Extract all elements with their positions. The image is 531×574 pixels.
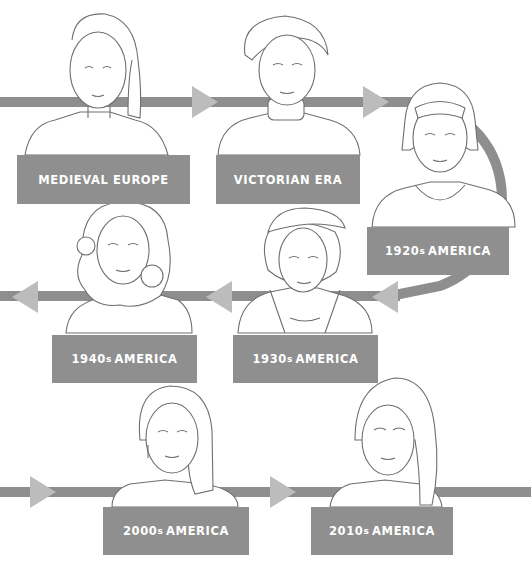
portrait-medieval-europe <box>25 14 168 155</box>
era-region: AMERICA <box>166 524 229 538</box>
era-decade: 1920 <box>385 244 419 258</box>
era-decade: 2010 <box>329 524 363 538</box>
era-label-victorian-era: VICTORIAN ERA <box>216 155 360 204</box>
era-region: AMERICA <box>115 352 178 366</box>
era-decade: 1940 <box>72 352 106 366</box>
era-label-text: VICTORIAN ERA <box>234 173 342 187</box>
era-label-text: MEDIEVAL EUROPE <box>38 173 168 187</box>
era-label-1930s-america: 1930sAMERICA <box>233 335 378 383</box>
era-decade: 1930 <box>253 352 287 366</box>
portrait-victorian-era <box>218 16 360 155</box>
era-decade-suffix: s <box>419 246 425 256</box>
portraits <box>0 0 531 574</box>
portrait-1920s-america <box>372 83 515 227</box>
portrait-2000s-america <box>112 386 238 507</box>
era-label-medieval-europe: MEDIEVAL EUROPE <box>17 155 190 204</box>
era-region: AMERICA <box>428 244 491 258</box>
era-region: AMERICA <box>372 524 435 538</box>
era-decade-suffix: s <box>287 354 293 364</box>
era-decade: 2000 <box>123 524 157 538</box>
portrait-1940s-america <box>66 202 192 333</box>
portrait-2010s-america <box>330 378 442 507</box>
era-label-1940s-america: 1940sAMERICA <box>52 335 197 383</box>
era-label-2010s-america: 2010sAMERICA <box>311 507 453 555</box>
era-decade-suffix: s <box>157 526 163 536</box>
era-label-2000s-america: 2000sAMERICA <box>103 507 249 555</box>
era-decade-suffix: s <box>106 354 112 364</box>
portrait-1930s-america <box>238 208 372 333</box>
era-decade-suffix: s <box>363 526 369 536</box>
era-region: AMERICA <box>296 352 359 366</box>
beauty-timeline-diagram: MEDIEVAL EUROPE VICTORIAN ERA 1920sAMERI… <box>0 0 531 574</box>
era-label-1920s-america: 1920sAMERICA <box>367 227 509 275</box>
